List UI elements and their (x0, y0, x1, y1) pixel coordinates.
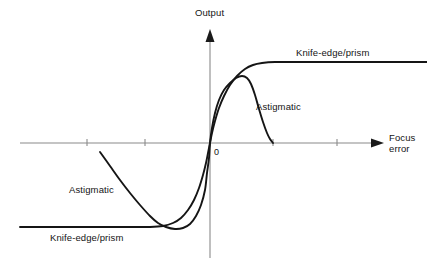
y-axis-arrowhead (206, 29, 215, 42)
x-axis-label-line1: Focus (389, 132, 415, 143)
curve-astigmatic (100, 76, 273, 229)
origin-label: 0 (214, 147, 219, 158)
focus-error-diagram: Output Focuserror 0 Knife-edge/prism Kni… (0, 0, 427, 268)
annotation-astigmatic-upper: Astigmatic (256, 101, 301, 112)
x-axis-arrowhead (371, 139, 384, 148)
plot-canvas (0, 0, 427, 268)
x-axis-label-line2: error (389, 143, 410, 154)
y-axis-label: Output (195, 7, 224, 18)
annotation-knife-edge-upper: Knife-edge/prism (296, 47, 369, 58)
annotation-knife-edge-lower: Knife-edge/prism (50, 232, 123, 243)
annotation-astigmatic-lower: Astigmatic (69, 184, 114, 195)
cropped-caption (0, 263, 427, 268)
curve-knife-edge-prism (20, 62, 427, 227)
x-axis-label: Focuserror (389, 132, 415, 154)
